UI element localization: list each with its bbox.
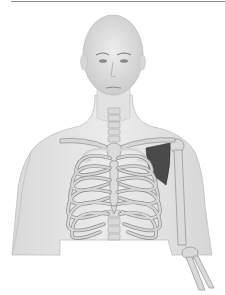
head [81,15,146,95]
right-eye [120,59,128,63]
left-eye [99,59,107,63]
anatomy-illustration [0,0,225,295]
